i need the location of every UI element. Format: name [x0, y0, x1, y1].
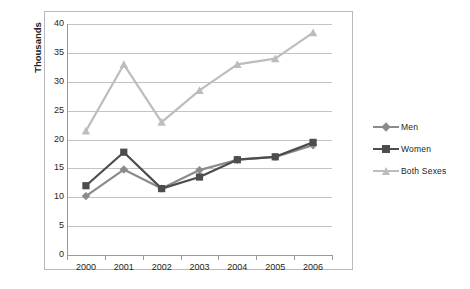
data-point-both-sexes-2006: [309, 28, 317, 36]
x-tickmark-2005: [256, 255, 257, 260]
legend-label: Women: [401, 144, 431, 154]
series-line-women: [86, 142, 313, 188]
x-tickmark-2001: [105, 255, 106, 260]
legend-marker-square-icon: [382, 145, 390, 153]
legend-item-men[interactable]: Men: [373, 116, 465, 138]
y-tick-20: 20: [30, 134, 64, 144]
data-point-women-2002: [158, 185, 165, 192]
y-tick-35: 35: [30, 47, 64, 57]
x-tickmark-2002: [143, 255, 144, 260]
data-point-women-2001: [120, 149, 127, 156]
series-layer: [67, 24, 332, 255]
x-axis-tick-labels: 2000200120022003200420052006: [67, 255, 332, 277]
legend-key-icon: [373, 143, 399, 155]
legend-marker-diamond-icon: [381, 122, 390, 131]
y-axis-tick-labels: 0510152025303540: [22, 24, 64, 255]
y-tick-10: 10: [30, 191, 64, 201]
data-point-men-2003: [195, 166, 203, 174]
legend-label: Men: [401, 122, 418, 132]
y-tick-40: 40: [30, 18, 64, 28]
data-point-women-2003: [196, 173, 203, 180]
chart-figure: Thousands 0510152025303540 2000200120022…: [0, 0, 470, 289]
x-tick-2006: 2006: [291, 262, 335, 272]
data-point-women-2006: [309, 139, 316, 146]
data-point-women-2005: [272, 153, 279, 160]
data-point-women-2004: [234, 156, 241, 163]
data-point-both-sexes-2001: [120, 60, 128, 68]
x-tickmark-end: [332, 255, 333, 260]
x-tickmark-2006: [294, 255, 295, 260]
y-tick-30: 30: [30, 76, 64, 86]
y-tick-5: 5: [30, 220, 64, 230]
y-tick-25: 25: [30, 105, 64, 115]
legend-label: Both Sexes: [401, 166, 446, 176]
plot-area: [67, 24, 332, 255]
series-line-both-sexes: [86, 33, 313, 131]
data-point-women-2000: [82, 182, 89, 189]
x-tickmark-2000: [67, 255, 68, 260]
legend-key-icon: [373, 165, 399, 177]
legend-item-women[interactable]: Women: [373, 138, 465, 160]
y-tick-0: 0: [30, 249, 64, 259]
legend-key-icon: [373, 121, 399, 133]
chart-legend: MenWomenBoth Sexes: [373, 116, 465, 182]
legend-item-both-sexes[interactable]: Both Sexes: [373, 160, 465, 182]
y-tick-15: 15: [30, 162, 64, 172]
x-tickmark-2003: [181, 255, 182, 260]
x-tickmark-2004: [218, 255, 219, 260]
